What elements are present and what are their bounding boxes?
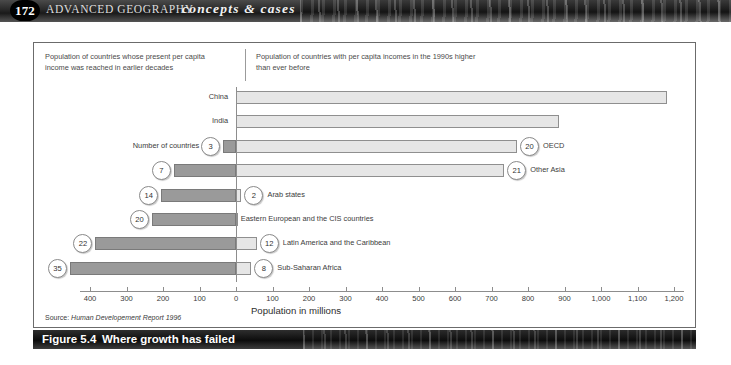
header-texture-decoration [300, 0, 731, 22]
row-category-label: Latin America and the Caribbean [283, 238, 391, 247]
count-bubble-right: 20 [520, 137, 539, 156]
count-bubble-left: 22 [73, 234, 92, 253]
count-bubble-left: 20 [130, 210, 149, 229]
source-note: Source: Human Developement Report 1996 [45, 314, 181, 321]
row-category-label: Arab states [267, 190, 304, 199]
chart-row: 721Other Asia [34, 160, 697, 182]
bar-left [174, 164, 236, 177]
x-axis-line [80, 291, 684, 292]
bar-left [161, 189, 236, 202]
x-axis-tick [565, 287, 566, 291]
x-axis-tick [674, 287, 675, 291]
x-axis-tick [346, 287, 347, 291]
row-category-label: Sub-Saharan Africa [277, 263, 341, 272]
x-axis-tick [200, 287, 201, 291]
book-subtitle: concepts & cases [182, 1, 296, 17]
bar-left [223, 140, 236, 153]
bar-right [236, 115, 559, 128]
chart-row: 320OECDNumber of countries [34, 136, 697, 158]
bar-left [152, 213, 236, 226]
row-category-label: OECD [543, 141, 564, 150]
series-annotation-label: Number of countries [133, 141, 200, 150]
chart-row: 20Eastern European and the CIS countries [34, 209, 697, 231]
bar-right [236, 164, 504, 177]
x-axis-tick [492, 287, 493, 291]
book-title: ADVANCED GEOGRAPHY [46, 3, 194, 15]
count-bubble-left: 3 [201, 137, 220, 156]
x-axis-tick-label: 0 [234, 294, 238, 303]
source-text: Human Developement Report 1996 [71, 314, 181, 321]
x-axis-tick-label: 300 [339, 294, 352, 303]
count-bubble-right: 21 [507, 161, 526, 180]
bar-right [236, 189, 241, 202]
x-axis-tick-label: 600 [449, 294, 462, 303]
chart-row: China [34, 87, 697, 109]
x-axis-tick-label: 1,200 [664, 294, 683, 303]
source-prefix: Source: [45, 314, 69, 321]
chart-row: India [34, 111, 697, 133]
chart-row: 358Sub-Saharan Africa [34, 258, 697, 280]
chart-plot-area: ChinaIndia320OECDNumber of countries721O… [34, 43, 697, 329]
x-axis-tick-label: 400 [376, 294, 389, 303]
x-axis-tick-label: 100 [193, 294, 206, 303]
x-axis-tick [90, 287, 91, 291]
bar-left [70, 262, 236, 275]
x-axis-tick-label: 200 [303, 294, 316, 303]
row-category-label: Eastern European and the CIS countries [241, 214, 374, 223]
x-axis-tick-label: 500 [412, 294, 425, 303]
count-bubble-right: 2 [244, 186, 263, 205]
x-axis-tick [309, 287, 310, 291]
bar-right [236, 262, 251, 275]
x-axis-tick-label: 800 [522, 294, 535, 303]
count-bubble-left: 7 [152, 161, 171, 180]
chart-row: 142Arab states [34, 185, 697, 207]
x-axis-tick [528, 287, 529, 291]
running-header: 172 ADVANCED GEOGRAPHY concepts & cases [0, 0, 731, 22]
x-axis-tick [601, 287, 602, 291]
figure-frame: Population of countries whose present pe… [33, 42, 696, 328]
x-axis-tick [236, 287, 237, 291]
figure-number: Figure 5.4 [42, 333, 96, 345]
page-number-badge: 172 [10, 0, 40, 21]
row-category-label: Other Asia [530, 165, 565, 174]
x-axis-tick [163, 287, 164, 291]
count-bubble-left: 35 [48, 259, 67, 278]
x-axis-tick-label: 700 [485, 294, 498, 303]
chart-row: 2212Latin America and the Caribbean [34, 233, 697, 255]
x-axis-tick-label: 300 [120, 294, 133, 303]
x-axis-tick-label: 400 [84, 294, 97, 303]
figure-caption-text: Where growth has failed [102, 333, 235, 345]
bar-right [236, 213, 238, 226]
x-axis-tick [382, 287, 383, 291]
row-category-label: India [212, 116, 228, 125]
figure-caption-bar: Figure 5.4 Where growth has failed [33, 330, 696, 349]
x-axis-tick [638, 287, 639, 291]
bar-left [95, 237, 236, 250]
x-axis-tick-label: 1,100 [628, 294, 647, 303]
caption-texture-decoration [303, 330, 696, 349]
bar-right [236, 140, 517, 153]
x-axis-tick [127, 287, 128, 291]
x-axis-tick [419, 287, 420, 291]
count-bubble-right: 8 [254, 259, 273, 278]
bar-right [236, 237, 257, 250]
row-category-label: China [209, 92, 228, 101]
x-axis-tick [455, 287, 456, 291]
count-bubble-left: 14 [139, 186, 158, 205]
x-axis-tick-label: 900 [558, 294, 571, 303]
bar-right [236, 91, 667, 104]
figure-page: 172 ADVANCED GEOGRAPHY concepts & cases … [0, 0, 731, 365]
x-axis-tick-label: 100 [266, 294, 279, 303]
x-axis-tick-label: 1,000 [591, 294, 610, 303]
count-bubble-right: 12 [260, 234, 279, 253]
x-axis-tick [273, 287, 274, 291]
x-axis-tick-label: 200 [157, 294, 170, 303]
